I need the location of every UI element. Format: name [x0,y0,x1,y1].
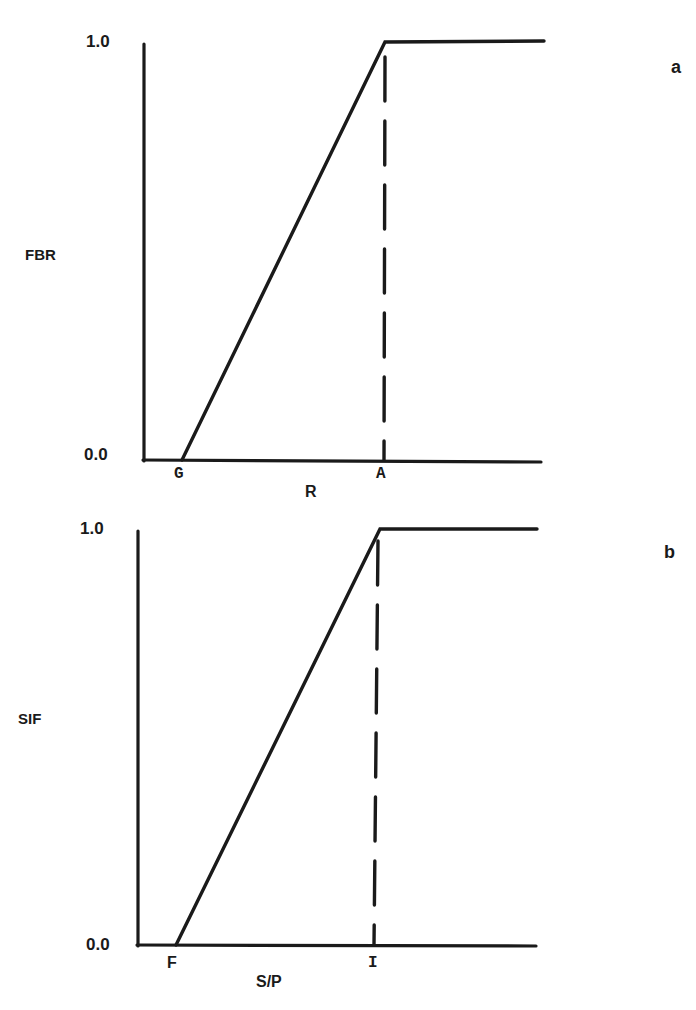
chart-b-x-axis-label: S/P [256,974,282,990]
chart-b-plot-area [0,0,696,1010]
chart-b-y-axis-label: SIF [18,711,41,726]
chart-b-y-bottom-tick: 0.0 [86,936,110,953]
chart-b-y-top-tick: 1.0 [80,520,104,537]
chart-b-x-tick-i: I [368,955,378,971]
chart-b-panel-tag: b [664,543,675,561]
chart-b-x-tick-f: F [167,955,177,971]
chart-b-threshold-dashed-line [374,541,378,945]
chart-b-x-axis [137,945,536,946]
chart-b-response-line [176,529,537,945]
